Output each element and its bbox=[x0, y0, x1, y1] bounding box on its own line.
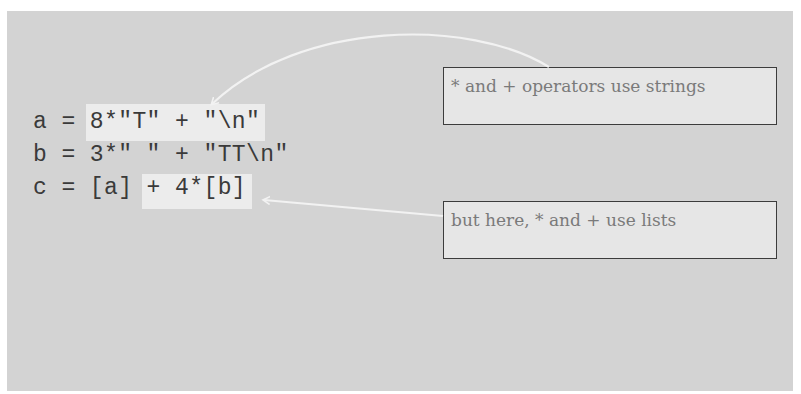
note-lists-text: but here, * and + use lists bbox=[451, 210, 676, 230]
note-lists: but here, * and + use lists bbox=[443, 201, 777, 259]
code-line-b: b = 3*" " + "TT\n" bbox=[33, 139, 289, 172]
code-line-c: c = [a] + 4*[b] bbox=[33, 172, 246, 205]
code-line-a: a = 8*"T" + "\n" bbox=[33, 106, 260, 139]
note-strings: * and + operators use strings bbox=[443, 67, 777, 125]
note-strings-text: * and + operators use strings bbox=[451, 76, 706, 96]
